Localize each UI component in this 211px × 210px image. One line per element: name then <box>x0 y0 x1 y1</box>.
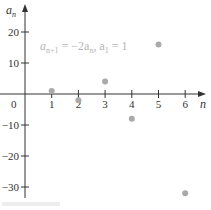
x-tick-label: 4 <box>129 98 135 110</box>
x-tick-label: 3 <box>102 98 108 110</box>
y-tick-label: −30 <box>2 181 20 193</box>
y-tick-label: 20 <box>8 26 20 38</box>
y-axis-arrow-icon <box>22 4 28 12</box>
data-point <box>156 41 162 47</box>
origin-label: 0 <box>11 98 17 110</box>
scatter-chart: 1234562010−10−20−30 an n 0 an+1 = −2an, … <box>0 0 211 210</box>
data-point <box>182 190 188 196</box>
formula-annotation: an+1 = −2an, a1 = 1 <box>40 39 128 55</box>
data-points <box>49 41 189 196</box>
data-point <box>102 79 108 85</box>
y-axis-label: an <box>6 3 16 19</box>
y-tick-label: −20 <box>2 150 20 162</box>
data-point <box>75 97 81 103</box>
y-tick-label: 10 <box>8 57 20 69</box>
x-axis-label: n <box>200 97 206 111</box>
data-point <box>129 116 135 122</box>
figure-caption <box>2 202 60 206</box>
x-tick-label: 6 <box>182 98 188 110</box>
x-tick-label: 5 <box>156 98 162 110</box>
y-tick-label: −10 <box>2 119 20 131</box>
x-tick-label: 1 <box>49 98 55 110</box>
data-point <box>49 88 55 94</box>
